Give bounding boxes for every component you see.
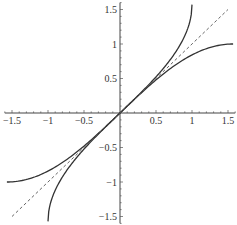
x-tick-label: 1: [190, 115, 195, 126]
x-tick-label: −0.5: [75, 115, 93, 126]
y-tick-label: −0.5: [99, 142, 117, 153]
x-tick-label: 0.5: [150, 115, 163, 126]
y-tick-label: 0.5: [105, 73, 118, 84]
function-plot: −1.5−1−0.50.511.5−1.5−1−0.50.511.5: [0, 0, 237, 225]
x-tick-label: −1.5: [3, 115, 21, 126]
y-tick-label: 1: [112, 39, 117, 50]
x-tick-label: 1.5: [222, 115, 235, 126]
y-tick-label: −1.5: [99, 211, 117, 222]
y-tick-label: −1: [106, 177, 117, 188]
x-tick-label: −1: [43, 115, 54, 126]
y-tick-label: 1.5: [105, 4, 118, 15]
